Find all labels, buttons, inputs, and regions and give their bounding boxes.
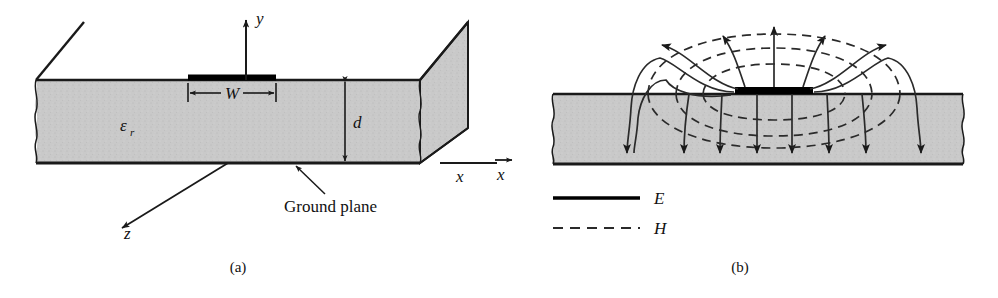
permittivity-label: ε <box>120 116 127 135</box>
x-axis-label: x <box>455 167 464 186</box>
x-axis-label-b: x <box>496 165 505 184</box>
legend-label-e: E <box>653 189 665 208</box>
microstrip-conductor-b <box>735 87 813 94</box>
figure-canvas: y x z W d ε r Ground plane (a) <box>0 0 998 298</box>
microstrip-conductor <box>188 75 276 81</box>
width-label: W <box>225 84 241 103</box>
permittivity-subscript: r <box>130 126 135 138</box>
legend-label-h: H <box>653 219 668 238</box>
microstrip-figure: y x z W d ε r Ground plane (a) <box>0 0 998 298</box>
substrate-dielectric-b <box>552 94 964 164</box>
height-label: d <box>353 113 362 132</box>
y-axis-label: y <box>254 9 264 28</box>
panel-a-caption: (a) <box>230 259 247 276</box>
panel-b-caption: (b) <box>731 259 749 276</box>
z-axis-label: z <box>123 224 131 243</box>
ground-plane-label: Ground plane <box>284 197 377 216</box>
